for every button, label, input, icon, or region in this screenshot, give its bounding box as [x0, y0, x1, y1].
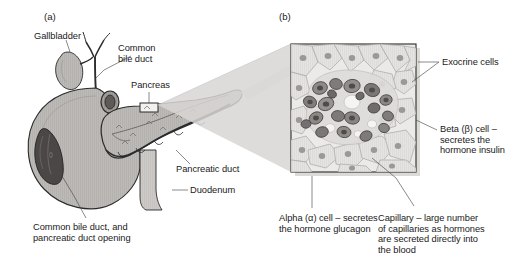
label-duodenum: Duodenum [190, 185, 235, 196]
panel-b-letter: (b) [279, 11, 291, 22]
bile-duct-tree [83, 32, 110, 92]
label-pancreas: Pancreas [131, 80, 170, 91]
label-exocrine-cells: Exocrine cells [442, 57, 499, 68]
panel-b-artwork [158, 44, 439, 208]
label-gallbladder: Gallbladder [34, 31, 81, 42]
magnification-wedge [158, 44, 291, 172]
magnified-region-marker [140, 103, 158, 112]
label-beta-cell: Beta (β) cell – secretes the hormone ins… [440, 124, 505, 156]
label-pancreatic-duct: Pancreatic duct [176, 164, 239, 175]
label-common-bile-duct: Common bile duct [118, 43, 155, 64]
gallbladder-shape [56, 52, 93, 90]
label-common-bile-duct-opening: Common bile duct, and pancreatic duct op… [33, 222, 131, 243]
label-alpha-cell: Alpha (α) cell – secretes the hormone gl… [279, 213, 378, 234]
label-capillary: Capillary – large number of capillaries … [378, 213, 485, 255]
panel-a-letter: (a) [44, 11, 56, 22]
figure-pancreas-islet: (a) Gallbladder Common bile duct Pancrea… [0, 0, 521, 263]
micrograph-panel [291, 44, 416, 172]
